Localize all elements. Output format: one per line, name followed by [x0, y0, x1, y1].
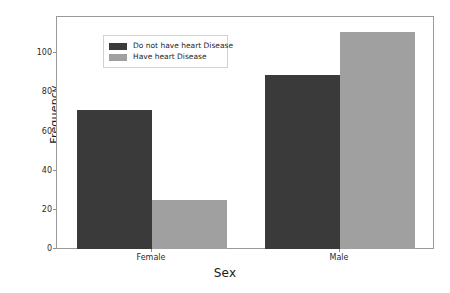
x-tick-label: Female: [137, 253, 166, 262]
legend-swatch-no-disease: [109, 43, 127, 50]
legend: Do not have heart Disease Have heart Dis…: [103, 35, 228, 68]
bar: [152, 200, 227, 249]
bar: [340, 32, 415, 249]
y-tick-label: 20: [0, 204, 52, 213]
x-tick-mark: [151, 249, 152, 252]
figure: Frequency 020406080100 FemaleMale Do not…: [0, 0, 450, 293]
plot-area: Do not have heart Disease Have heart Dis…: [56, 16, 434, 249]
legend-label-has-disease: Have heart Disease: [133, 52, 207, 62]
x-tick-label: Male: [330, 253, 349, 262]
y-tick-label: 60: [0, 126, 52, 135]
bar: [265, 75, 340, 249]
bar: [77, 110, 152, 249]
x-tick-mark: [339, 249, 340, 252]
y-tick-label: 80: [0, 87, 52, 96]
legend-swatch-has-disease: [109, 54, 127, 61]
legend-item: Do not have heart Disease: [109, 41, 222, 51]
y-tick-label: 0: [0, 244, 52, 253]
legend-item: Have heart Disease: [109, 52, 222, 62]
y-tick-label: 100: [0, 48, 52, 57]
y-tick-label: 40: [0, 165, 52, 174]
legend-label-no-disease: Do not have heart Disease: [133, 41, 233, 51]
x-axis-title: Sex: [0, 266, 450, 280]
